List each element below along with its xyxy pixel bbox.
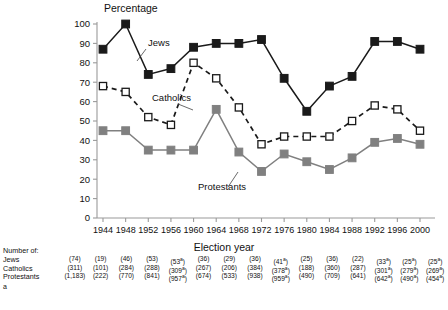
y-tick-label: 100 (74, 18, 90, 29)
data-point-jews (99, 45, 107, 53)
data-point-protestants (371, 138, 379, 146)
x-tick-label: 1960 (184, 225, 204, 235)
numbers-cell: (709) (319, 272, 345, 281)
data-point-protestants (167, 146, 175, 154)
x-tick-label: 1972 (251, 225, 271, 235)
numbers-cell: (36) (191, 255, 217, 264)
numbers-cell: (25) (294, 255, 320, 264)
numbers-cell: (188) (294, 264, 320, 273)
data-point-protestants (190, 146, 198, 154)
numbers-cell: (46) (113, 255, 139, 264)
x-tick-label: 1944 (93, 225, 113, 235)
numbers-cell: (74) (62, 255, 88, 264)
data-point-jews (258, 36, 266, 44)
data-point-catholics (281, 133, 288, 140)
data-point-catholics (145, 114, 152, 121)
y-tick-label: 0 (85, 212, 90, 223)
x-axis-title: Election year (0, 241, 448, 253)
data-point-protestants (280, 150, 288, 158)
x-tick-label: 1968 (229, 225, 249, 235)
data-point-protestants (212, 105, 220, 113)
numbers-cell: (29) (216, 255, 242, 264)
numbers-cell: (269a) (422, 264, 448, 273)
data-point-protestants (393, 135, 401, 143)
data-point-catholics (99, 82, 106, 89)
data-point-catholics (416, 127, 423, 134)
series-label-jews: Jews (148, 37, 170, 48)
numbers-cell: (36) (242, 255, 268, 264)
data-point-catholics (394, 106, 401, 113)
numbers-cell: (490) (294, 272, 320, 281)
numbers-cell: (301a) (371, 264, 397, 273)
numbers-table-header: Number of: (3, 246, 39, 255)
data-point-jews (371, 38, 379, 46)
data-point-catholics (258, 141, 265, 148)
y-tick-label: 50 (79, 115, 90, 126)
data-point-jews (122, 20, 130, 28)
data-point-catholics (190, 59, 197, 66)
numbers-cell: (841) (139, 272, 165, 281)
data-point-protestants (144, 146, 152, 154)
data-point-protestants (258, 168, 266, 176)
numbers-cell: (309a) (165, 264, 191, 273)
numbers-cell: (287) (345, 264, 371, 273)
numbers-cell: (770) (113, 272, 139, 281)
y-tick-label: 80 (79, 57, 90, 68)
numbers-cell: (642a) (371, 272, 397, 281)
x-tick-label: 1980 (297, 225, 317, 235)
data-point-jews (212, 40, 220, 48)
x-tick-label: 1952 (138, 225, 158, 235)
data-point-catholics (326, 133, 333, 140)
numbers-cell: (279a) (397, 264, 423, 273)
numbers-cell: (25a) (397, 255, 423, 264)
data-point-catholics (371, 102, 378, 109)
data-point-jews (303, 107, 311, 115)
numbers-cell: (959a) (268, 272, 294, 281)
x-tick-label: 1948 (116, 225, 136, 235)
series-label-leader (178, 104, 193, 110)
y-tick-label: 70 (79, 77, 90, 88)
numbers-cell: (533) (216, 272, 242, 281)
data-point-catholics (348, 117, 355, 124)
numbers-cell: (19) (88, 255, 114, 264)
numbers-cell: (311) (62, 264, 88, 273)
y-tick-label: 60 (79, 96, 90, 107)
data-point-protestants (416, 140, 424, 148)
data-point-jews (348, 72, 356, 80)
numbers-cell: (53) (139, 255, 165, 264)
x-tick-label: 1984 (319, 225, 339, 235)
numbers-cell: (957a) (165, 272, 191, 281)
x-tick-label: 1992 (365, 225, 385, 235)
numbers-cell: (222) (88, 272, 114, 281)
y-tick-label: 10 (79, 193, 90, 204)
x-tick-label: 1976 (274, 225, 294, 235)
numbers-cell: (25a) (422, 255, 448, 264)
x-tick-label: 1964 (206, 225, 226, 235)
data-point-protestants (326, 166, 334, 174)
numbers-cell: (360) (319, 264, 345, 273)
numbers-cell: (41a) (268, 255, 294, 264)
x-tick-label: 1956 (161, 225, 181, 235)
data-point-protestants (99, 127, 107, 135)
numbers-cell: (267) (191, 264, 217, 273)
x-axis: 1944194819521956196019641968197219761980… (93, 218, 435, 235)
numbers-row-label-protestants: Protestants (3, 272, 39, 281)
numbers-cell: (674) (191, 272, 217, 281)
data-point-protestants (235, 148, 243, 156)
numbers-row-jews: (74)(19)(46)(53)(53a)(36)(29)(36)(41a)(2… (62, 255, 448, 264)
numbers-cell: (284) (113, 264, 139, 273)
data-point-catholics (167, 121, 174, 128)
numbers-cell: (33a) (371, 255, 397, 264)
footnote-marker: a (3, 283, 7, 290)
data-point-jews (280, 74, 288, 82)
data-point-jews (416, 45, 424, 53)
data-point-jews (190, 43, 198, 51)
numbers-row-catholics: (311)(101)(284)(288)(309a)(267)(206)(384… (62, 264, 448, 273)
numbers-cell: (22) (345, 255, 371, 264)
data-point-catholics (235, 104, 242, 111)
data-point-catholics (303, 133, 310, 140)
numbers-cell: (101) (88, 264, 114, 273)
series-label-catholics: Catholics (152, 92, 191, 103)
data-point-protestants (348, 154, 356, 162)
numbers-cell: (36) (319, 255, 345, 264)
